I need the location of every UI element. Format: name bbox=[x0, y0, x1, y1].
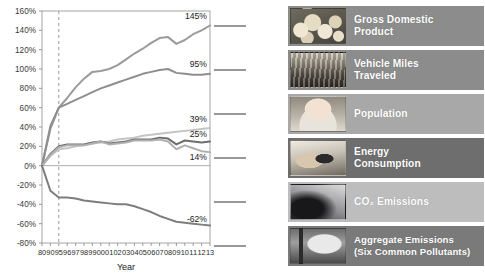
plug-photo-icon bbox=[290, 140, 346, 176]
x-tick-label: 02 bbox=[113, 248, 121, 257]
legend-label: Aggregate Emissions (Six Common Pollutan… bbox=[354, 234, 470, 257]
series-line bbox=[42, 166, 210, 226]
x-tick-label: 97 bbox=[71, 248, 79, 257]
x-tick-label: 06 bbox=[147, 248, 155, 257]
series-value-label: 145% bbox=[185, 11, 207, 21]
x-tick-label: 96 bbox=[63, 248, 71, 257]
legend-item-population[interactable]: Population bbox=[288, 94, 484, 134]
legend-label: Energy Consumption bbox=[354, 146, 421, 171]
chart-plot-panel: 160%140%120%100%80%60%40%20%0%-20%-40%-6… bbox=[0, 0, 248, 274]
x-tick-label: 01 bbox=[105, 248, 113, 257]
series-line bbox=[42, 69, 210, 166]
chart-figure: 160%140%120%100%80%60%40%20%0%-20%-40%-6… bbox=[0, 0, 485, 274]
x-axis-title: Year bbox=[117, 262, 135, 272]
series-value-label: -62% bbox=[187, 214, 207, 224]
baby-photo-icon bbox=[290, 96, 346, 132]
x-tick-label: 99 bbox=[88, 248, 96, 257]
y-tick-label: 140% bbox=[15, 26, 36, 35]
x-tick-label: 90 bbox=[46, 248, 54, 257]
legend-label: Vehicle Miles Traveled bbox=[354, 58, 419, 83]
x-tick-label: 13 bbox=[206, 248, 214, 257]
legend-bar: Population bbox=[288, 94, 484, 134]
traffic-photo-icon bbox=[290, 52, 346, 88]
x-tick-label: 10 bbox=[181, 248, 189, 257]
y-tick-label: -80% bbox=[17, 239, 36, 248]
legend-label: CO₂ Emissions bbox=[354, 196, 429, 208]
x-tick-label: 11 bbox=[189, 248, 197, 257]
y-tick-label: 100% bbox=[15, 65, 36, 74]
x-tick-label: 03 bbox=[122, 248, 130, 257]
coins-photo-icon bbox=[290, 8, 346, 44]
y-tick-label: 120% bbox=[15, 46, 36, 55]
legend-item-aggregate-emissions[interactable]: Aggregate Emissions (Six Common Pollutan… bbox=[288, 226, 484, 266]
line-chart-svg: 160%140%120%100%80%60%40%20%0%-20%-40%-6… bbox=[0, 0, 248, 274]
legend-bar: Energy Consumption bbox=[288, 138, 484, 178]
legend-label: Gross Domestic Product bbox=[354, 14, 434, 39]
y-tick-label: 40% bbox=[20, 123, 36, 132]
plot-frame bbox=[42, 11, 210, 243]
x-tick-label: 95 bbox=[55, 248, 63, 257]
x-tick-label: 04 bbox=[130, 248, 138, 257]
series-line bbox=[42, 128, 210, 166]
chart-legend: Gross Domestic Product Vehicle Miles Tra… bbox=[288, 0, 485, 274]
industrial-stack-photo-icon bbox=[290, 228, 346, 264]
series-value-label: 39% bbox=[190, 114, 208, 124]
legend-item-co2-emissions[interactable]: CO₂ Emissions bbox=[288, 182, 484, 222]
y-tick-label: 20% bbox=[20, 142, 36, 151]
legend-bar: Aggregate Emissions (Six Common Pollutan… bbox=[288, 226, 484, 266]
x-tick-label: 80 bbox=[38, 248, 46, 257]
x-tick-label: 05 bbox=[139, 248, 147, 257]
legend-label: Population bbox=[354, 108, 408, 120]
legend-item-energy-consumption[interactable]: Energy Consumption bbox=[288, 138, 484, 178]
x-tick-label: 98 bbox=[80, 248, 88, 257]
y-tick-label: 0% bbox=[24, 162, 36, 171]
y-tick-label: -40% bbox=[17, 200, 36, 209]
legend-item-vehicle-miles-traveled[interactable]: Vehicle Miles Traveled bbox=[288, 50, 484, 90]
x-tick-label: 08 bbox=[164, 248, 172, 257]
x-tick-label: 00 bbox=[97, 248, 105, 257]
x-tick-label: 12 bbox=[197, 248, 205, 257]
y-tick-label: 80% bbox=[20, 84, 36, 93]
y-tick-label: -60% bbox=[17, 220, 36, 229]
x-tick-label: 07 bbox=[155, 248, 163, 257]
series-value-label: 14% bbox=[190, 152, 208, 162]
y-tick-label: 160% bbox=[15, 7, 36, 16]
y-tick-label: -20% bbox=[17, 181, 36, 190]
smokestack-photo-icon bbox=[290, 184, 346, 220]
y-tick-label: 60% bbox=[20, 104, 36, 113]
legend-bar: Vehicle Miles Traveled bbox=[288, 50, 484, 90]
legend-item-gross-domestic-product[interactable]: Gross Domestic Product bbox=[288, 6, 484, 46]
legend-bar: CO₂ Emissions bbox=[288, 182, 484, 222]
series-value-label: 95% bbox=[190, 59, 208, 69]
series-value-label: 25% bbox=[190, 129, 208, 139]
legend-bar: Gross Domestic Product bbox=[288, 6, 484, 46]
x-tick-label: 09 bbox=[172, 248, 180, 257]
